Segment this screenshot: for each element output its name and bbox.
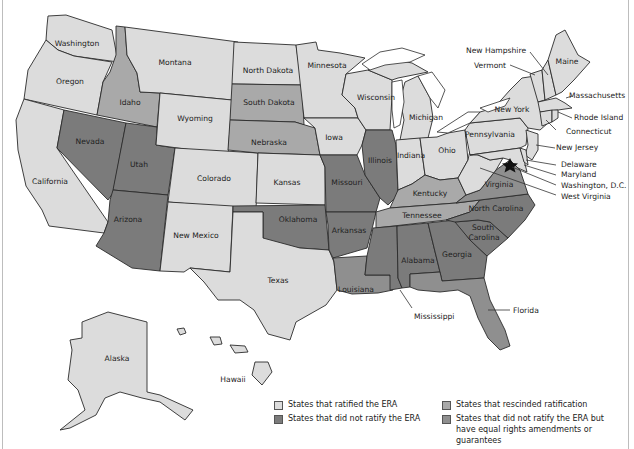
label-california: California — [32, 177, 68, 186]
label-north-carolina: North Carolina — [469, 204, 524, 213]
state-hawaii-big-island — [252, 362, 272, 385]
label-missouri: Missouri — [331, 178, 362, 187]
label-louisiana: Louisiana — [338, 285, 374, 294]
label-rhode-island: Rhode Island — [574, 113, 623, 122]
legend-label-ratified: States that ratified the ERA — [288, 399, 397, 410]
label-washington: Washington — [55, 39, 100, 48]
label-wyoming: Wyoming — [177, 114, 213, 123]
label-wisconsin: Wisconsin — [357, 93, 395, 102]
label-texas: Texas — [267, 276, 289, 285]
label-colorado: Colorado — [197, 174, 231, 183]
label-new-mexico: New Mexico — [173, 231, 219, 240]
state-arizona — [96, 190, 168, 271]
state-north-dakota — [232, 42, 302, 85]
state-rhode-island — [552, 110, 558, 122]
label-maryland: Maryland — [561, 170, 596, 179]
label-iowa: Iowa — [325, 133, 343, 142]
label-massachusetts: Massachusetts — [569, 91, 625, 100]
label-maine: Maine — [556, 57, 579, 66]
label-new-jersey: New Jersey — [556, 143, 599, 152]
legend-swatch-equal-rights — [442, 415, 451, 424]
label-connecticut: Connecticut — [566, 127, 611, 136]
label-nevada: Nevada — [76, 137, 105, 146]
state-alaska — [60, 312, 193, 430]
label-mississippi: Mississippi — [414, 312, 454, 321]
label-alaska: Alaska — [105, 354, 130, 363]
legend-label-equal-rights-line1: States that did not ratify the ERA but — [456, 414, 604, 423]
label-delaware: Delaware — [561, 160, 597, 169]
leader-delaware — [526, 160, 556, 165]
label-indiana: Indiana — [397, 151, 425, 160]
leader-vermont — [510, 65, 535, 75]
label-illinois: Illinois — [368, 156, 392, 165]
label-south-dakota: South Dakota — [243, 98, 294, 107]
legend-swatch-ratified — [274, 401, 283, 410]
label-vermont: Vermont — [474, 61, 506, 70]
label-nebraska: Nebraska — [251, 138, 287, 147]
label-dc: Washington, D.C. — [561, 181, 626, 190]
label-georgia: Georgia — [442, 250, 472, 259]
legend-label-rescinded: States that rescinded ratification — [456, 399, 587, 410]
label-kentucky: Kentucky — [413, 189, 448, 198]
label-florida: Florida — [513, 306, 539, 315]
leader-rhode-island — [558, 112, 572, 118]
lake-michigan — [392, 80, 404, 128]
label-utah: Utah — [130, 160, 148, 169]
legend-item-did-not-ratify: States that did not ratify the ERA — [274, 413, 420, 424]
label-oklahoma: Oklahoma — [279, 215, 318, 224]
label-north-dakota: North Dakota — [243, 66, 294, 75]
label-arizona: Arizona — [114, 215, 143, 224]
legend-item-equal-rights: States that did not ratify the ERA but h… — [442, 413, 634, 446]
label-hawaii: Hawaii — [220, 375, 245, 384]
label-ohio: Ohio — [438, 146, 456, 155]
legend-item-ratified: States that ratified the ERA — [274, 399, 420, 410]
leader-new-jersey — [536, 145, 555, 148]
state-wyoming — [156, 93, 232, 155]
label-minnesota: Minnesota — [307, 61, 346, 70]
state-hawaii-oahu — [210, 337, 222, 345]
label-pennsylvania: Pennsylvania — [465, 130, 515, 139]
label-virginia: Virginia — [485, 180, 514, 189]
label-south-carolina-2: Carolina — [468, 233, 499, 242]
state-hawaii-maui — [230, 345, 248, 353]
label-idaho: Idaho — [119, 98, 141, 107]
us-era-map: Washington Oregon California Idaho Nevad… — [0, 0, 634, 449]
label-new-hampshire: New Hampshire — [466, 46, 526, 55]
label-michigan: Michigan — [409, 113, 443, 122]
legend-column-1: States that ratified the ERA States that… — [274, 399, 420, 427]
label-south-carolina-1: South — [472, 223, 494, 232]
leader-mississippi — [400, 290, 412, 308]
state-connecticut — [540, 110, 552, 126]
legend-label-equal-rights: States that did not ratify the ERA but h… — [456, 413, 634, 446]
state-florida — [410, 272, 510, 350]
legend-label-equal-rights-line2: have equal rights amendments or guarante… — [456, 425, 592, 445]
label-arkansas: Arkansas — [332, 226, 367, 235]
label-tennessee: Tennessee — [401, 211, 442, 220]
label-west-virginia: West Virginia — [561, 192, 611, 201]
legend-swatch-did-not-ratify — [274, 415, 283, 424]
label-kansas: Kansas — [274, 178, 301, 187]
label-new-york: New York — [495, 105, 530, 114]
legend-label-did-not-ratify: States that did not ratify the ERA — [288, 413, 420, 424]
legend-column-2: States that rescinded ratification State… — [442, 399, 634, 449]
legend-item-rescinded: States that rescinded ratification — [442, 399, 634, 410]
label-montana: Montana — [158, 58, 191, 67]
state-hawaii-kauai — [177, 328, 186, 335]
label-alabama: Alabama — [401, 256, 434, 265]
label-oregon: Oregon — [56, 77, 84, 86]
legend-swatch-rescinded — [442, 401, 451, 410]
